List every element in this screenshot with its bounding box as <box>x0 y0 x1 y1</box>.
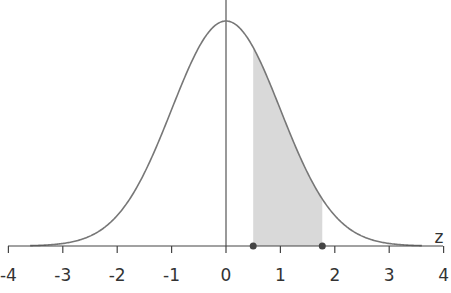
x-tick-label: 4 <box>438 265 449 285</box>
interval-marker <box>319 243 326 250</box>
x-axis-label: z <box>435 227 444 247</box>
normal-distribution-chart: -4-3-2-101234 z <box>0 0 451 293</box>
x-tick-label: 2 <box>329 265 340 285</box>
x-tick-label: 3 <box>384 265 395 285</box>
x-tick-label: 0 <box>221 265 232 285</box>
interval-marker <box>250 243 257 250</box>
x-tick-label: 1 <box>275 265 286 285</box>
x-tick-label: -1 <box>163 265 180 285</box>
x-tick-label: -2 <box>109 265 126 285</box>
x-tick-label: -4 <box>0 265 17 285</box>
shaded-area <box>253 47 322 246</box>
x-axis-ticks: -4-3-2-101234 <box>0 246 449 285</box>
x-tick-label: -3 <box>54 265 71 285</box>
